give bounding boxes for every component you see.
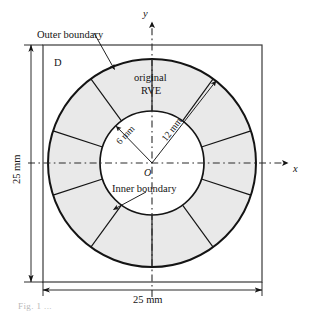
figure-caption: Fig. 1 ... <box>0 298 311 315</box>
rve-label-line1: original <box>134 72 167 83</box>
domain-label: D <box>54 57 62 68</box>
inner-boundary-label: Inner boundary <box>112 183 177 194</box>
rve-geometry-diagram: Outer boundary D original RVE 6 mm 12 mm… <box>0 0 311 315</box>
axis-y-label: y <box>142 8 148 19</box>
figure-container: Outer boundary D original RVE 6 mm 12 mm… <box>0 0 311 315</box>
figure-caption-text: Fig. 1 ... <box>0 298 311 315</box>
rve-label-line2: RVE <box>141 85 161 96</box>
origin-label: O <box>144 167 151 178</box>
height-dimension-label: 25 mm <box>11 155 22 184</box>
outer-boundary-label: Outer boundary <box>37 29 104 40</box>
axis-x-label: x <box>292 163 298 174</box>
